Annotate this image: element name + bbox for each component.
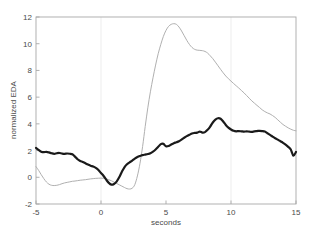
x-tick-label: 10 bbox=[227, 208, 236, 217]
y-tick-label: 8 bbox=[28, 66, 33, 75]
y-tick-label: 4 bbox=[28, 120, 33, 129]
y-tick-label: 10 bbox=[23, 40, 32, 49]
x-tick-label: -5 bbox=[32, 208, 40, 217]
x-tick-labels: -5051015 bbox=[32, 208, 301, 217]
x-tick-label: 0 bbox=[99, 208, 104, 217]
y-tick-label: 0 bbox=[28, 173, 33, 182]
x-tick-label: 5 bbox=[164, 208, 169, 217]
y-tick-label: -2 bbox=[25, 200, 33, 209]
chart-figure: -5051015 -2024681012 seconds normalized … bbox=[0, 0, 317, 240]
x-axis-title: seconds bbox=[151, 218, 181, 227]
plot-background bbox=[36, 17, 296, 204]
y-tick-label: 2 bbox=[28, 147, 33, 156]
y-tick-labels: -2024681012 bbox=[23, 13, 32, 209]
chart-svg: -5051015 -2024681012 seconds normalized … bbox=[0, 0, 317, 240]
y-tick-label: 6 bbox=[28, 93, 33, 102]
y-axis-title: normalized EDA bbox=[9, 80, 18, 138]
x-tick-label: 15 bbox=[292, 208, 301, 217]
y-tick-label: 12 bbox=[23, 13, 32, 22]
